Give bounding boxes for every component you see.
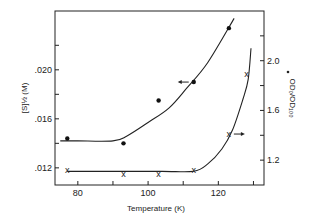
y-left-tick-label: .016 — [34, 114, 52, 124]
data-point-circle — [227, 26, 231, 30]
data-point-circle — [121, 141, 125, 145]
data-point-x: x — [156, 169, 161, 179]
data-point-circle — [65, 136, 69, 140]
y-axis-right-label: OD₀/OD₁₀₀ — [288, 79, 297, 118]
data-point-x: x — [121, 169, 126, 179]
data-point-x: x — [65, 165, 70, 175]
chart-background — [0, 0, 309, 219]
data-point-x: x — [191, 165, 196, 175]
right-label-marker-icon — [287, 71, 290, 74]
data-point-circle — [192, 80, 196, 84]
x-tick-label: 100 — [141, 188, 156, 198]
data-point-x: x — [227, 129, 232, 139]
x-axis-label: Temperature (K) — [127, 204, 185, 213]
x-tick-label: 120 — [211, 188, 226, 198]
x-tick-label: 80 — [73, 188, 83, 198]
y-right-tick-label: 2.0 — [267, 56, 280, 66]
y-left-tick-label: .020 — [34, 65, 52, 75]
y-right-tick-label: 1.2 — [267, 155, 280, 165]
y-left-tick-label: .012 — [34, 163, 52, 173]
data-point-circle — [156, 98, 160, 102]
y-axis-left-label: [S]½ (M) — [20, 82, 29, 113]
y-right-tick-label: 1.6 — [267, 105, 280, 115]
data-point-x: x — [244, 69, 249, 79]
chart: 80100120 .012.016.020 1.21.62.0 xxxxxx T… — [0, 0, 309, 219]
